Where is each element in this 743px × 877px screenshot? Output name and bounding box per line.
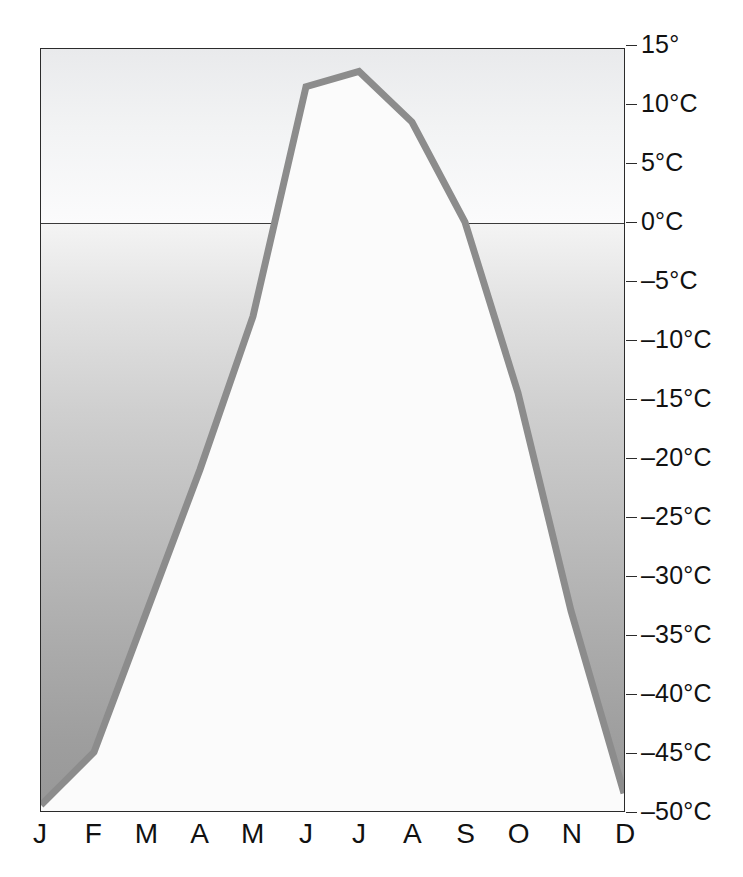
area-under-curve [41, 71, 624, 811]
y-tick-10 [626, 635, 637, 636]
x-axis-label-august: A [390, 820, 434, 848]
x-axis-label-october: O [497, 820, 541, 848]
x-axis-label-april: A [178, 820, 222, 848]
x-axis-label-june: J [284, 820, 328, 848]
x-axis-label-december: D [603, 820, 647, 848]
y-axis-label-10: –35°C [641, 622, 712, 647]
y-axis-label-3: 0°C [641, 209, 684, 234]
y-axis-label-11: –40°C [641, 681, 712, 706]
x-axis-label-november: N [550, 820, 594, 848]
y-tick-4 [626, 281, 637, 282]
y-tick-0 [626, 45, 637, 46]
x-axis-label-january: J [18, 820, 62, 848]
y-tick-9 [626, 576, 637, 577]
y-tick-12 [626, 753, 637, 754]
y-axis-label-8: –25°C [641, 504, 712, 529]
y-axis-label-2: 5°C [641, 150, 684, 175]
y-tick-8 [626, 517, 637, 518]
y-tick-2 [626, 163, 637, 164]
x-axis-label-july: J [337, 820, 381, 848]
y-tick-1 [626, 104, 637, 105]
y-tick-7 [626, 458, 637, 459]
y-tick-6 [626, 399, 637, 400]
x-axis-label-march: M [124, 820, 168, 848]
x-axis-label-february: F [71, 820, 115, 848]
y-axis-label-4: –5°C [641, 268, 698, 293]
y-axis-label-12: –45°C [641, 740, 712, 765]
chart-figure: 15°10°C5°C0°C–5°C–10°C–15°C–20°C–25°C–30… [0, 0, 743, 877]
y-axis-label-9: –30°C [641, 563, 712, 588]
y-tick-13 [626, 812, 637, 813]
y-tick-5 [626, 340, 637, 341]
y-axis-label-13: –50°C [641, 799, 712, 824]
temperature-curve [41, 49, 624, 811]
y-tick-3 [626, 222, 637, 223]
y-tick-11 [626, 694, 637, 695]
y-axis-label-7: –20°C [641, 445, 712, 470]
y-axis-label-6: –15°C [641, 386, 712, 411]
y-axis-label-0: 15° [641, 32, 679, 57]
y-axis-label-1: 10°C [641, 91, 698, 116]
plot-area [40, 48, 625, 812]
x-axis-label-may: M [231, 820, 275, 848]
y-axis-label-5: –10°C [641, 327, 712, 352]
x-axis-label-september: S [444, 820, 488, 848]
